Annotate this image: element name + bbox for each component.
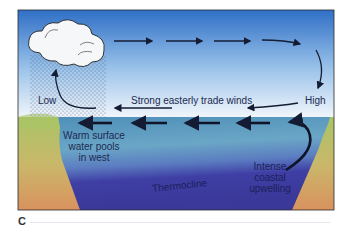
warm-pool-line-1: Warm surface — [62, 130, 126, 141]
warm-pool-line-2: water pools — [62, 141, 126, 152]
warm-pool-label: Warm surface water pools in west — [62, 130, 126, 163]
warm-pool-line-3: in west — [62, 152, 126, 163]
upwelling-line-3: upwelling — [242, 183, 298, 194]
upwelling-label: Intense coastal upwelling — [242, 161, 298, 194]
walker-circulation-diagram: Low High Strong easterly trade winds War… — [0, 0, 348, 232]
high-pressure-label: High — [305, 95, 326, 106]
trade-winds-label: Strong easterly trade winds — [131, 95, 252, 106]
panel-letter: C — [18, 215, 26, 227]
upwelling-line-1: Intense — [242, 161, 298, 172]
low-pressure-label: Low — [38, 95, 56, 106]
caption-divider — [30, 222, 330, 223]
upwelling-line-2: coastal — [242, 172, 298, 183]
diagram-canvas — [0, 0, 348, 232]
